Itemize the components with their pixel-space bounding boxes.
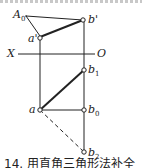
label-a: a [29,104,36,115]
label-a0: A0 [13,9,25,23]
label-bprime: b' [88,14,98,25]
axis-label-x: X [7,48,15,59]
point-a0 [25,15,27,17]
point-bprime [81,18,85,22]
line-a0-bprime [26,16,83,20]
label-b0: b0 [88,104,100,118]
point-b2 [82,150,86,154]
axis-label-o: O [97,48,106,59]
line-a-b2-dashed [40,110,84,152]
point-b1 [82,68,86,72]
point-a [38,108,42,112]
line-aprime-bprime [40,20,83,37]
projection-diagram [0,0,142,168]
label-aprime: a' [28,33,38,44]
label-b1: b1 [88,64,100,78]
line-a-b1 [40,70,84,110]
point-b0 [82,108,86,112]
figure-caption: 14. 用直角三角形法补全 [4,158,135,168]
point-aprime [38,36,42,40]
